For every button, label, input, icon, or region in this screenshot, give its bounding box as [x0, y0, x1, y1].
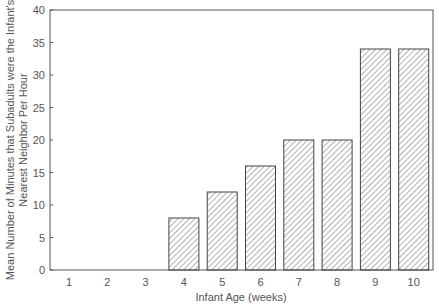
y-tick-label: 0 — [39, 264, 45, 276]
x-axis: 12345678910 — [66, 276, 420, 288]
y-tick-label: 10 — [33, 199, 45, 211]
x-tick-label: 7 — [296, 276, 302, 288]
bar-chart: 0510152025303540 12345678910 Infant Age … — [0, 0, 439, 307]
bar-week-7 — [284, 140, 314, 270]
x-tick-label: 5 — [219, 276, 225, 288]
bar-week-5 — [207, 192, 237, 270]
y-tick-label: 5 — [39, 232, 45, 244]
y-axis-title: Mean Number of Minutes that Subadults we… — [4, 0, 29, 280]
y-tick-label: 30 — [33, 69, 45, 81]
y-tick-label: 25 — [33, 102, 45, 114]
y-axis-title-line1: Mean Number of Minutes that Subadults we… — [4, 0, 16, 280]
x-tick-label: 8 — [334, 276, 340, 288]
x-tick-label: 3 — [143, 276, 149, 288]
bar-week-9 — [360, 49, 390, 270]
x-tick-label: 1 — [66, 276, 72, 288]
x-tick-label: 10 — [408, 276, 420, 288]
bar-week-8 — [322, 140, 352, 270]
bar-week-4 — [169, 218, 199, 270]
x-tick-label: 9 — [372, 276, 378, 288]
x-tick-label: 4 — [181, 276, 187, 288]
y-tick-label: 15 — [33, 167, 45, 179]
y-tick-label: 35 — [33, 37, 45, 49]
bar-week-10 — [399, 49, 429, 270]
y-axis-title-line2: Nearest Neighbor Per Hour — [17, 73, 29, 207]
plot-area — [50, 10, 433, 270]
x-axis-title: Infant Age (weeks) — [195, 291, 286, 303]
x-tick-label: 6 — [257, 276, 263, 288]
bar-week-6 — [246, 166, 276, 270]
x-tick-label: 2 — [104, 276, 110, 288]
y-tick-label: 40 — [33, 4, 45, 16]
y-tick-label: 20 — [33, 134, 45, 146]
